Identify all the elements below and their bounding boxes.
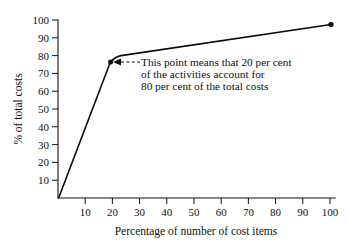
- pareto-chart-canvas: 100 90 80 70 60 50 40 30 20 10 % of tota…: [0, 0, 350, 250]
- y-tick-label-80: 80: [38, 50, 50, 62]
- callout-text-line-1: This point means that 20 per cent: [141, 56, 292, 68]
- chart-figure: 100 90 80 70 60 50 40 30 20 10 % of tota…: [0, 0, 350, 250]
- callout-text-line-2: of the activities account for: [141, 68, 265, 80]
- y-tick-label-30: 30: [38, 139, 50, 151]
- x-axis-tick-labels: 10 20 30 40 50 60 70 80 90 100: [80, 206, 339, 218]
- x-axis-ticks: [85, 198, 330, 204]
- pareto-callout-text: This point means that 20 per cent of the…: [141, 56, 292, 92]
- y-tick-label-60: 60: [38, 85, 50, 97]
- x-tick-label-100: 100: [322, 206, 339, 218]
- x-tick-label-20: 20: [107, 206, 119, 218]
- y-tick-label-100: 100: [33, 14, 50, 26]
- data-point-end-100-98: [328, 22, 333, 27]
- y-axis-tick-labels: 100 90 80 70 60 50 40 30 20 10: [33, 14, 50, 186]
- y-tick-label-10: 10: [38, 174, 50, 186]
- leader-arrow-head-icon: [113, 59, 121, 66]
- y-axis-group: 100 90 80 70 60 50 40 30 20 10 % of tota…: [12, 14, 58, 198]
- y-tick-label-40: 40: [38, 121, 50, 133]
- y-axis-title: % of total costs: [12, 73, 24, 145]
- y-tick-label-50: 50: [38, 103, 50, 115]
- x-tick-label-50: 50: [189, 206, 201, 218]
- x-tick-label-90: 90: [297, 206, 309, 218]
- y-tick-label-70: 70: [38, 67, 50, 79]
- data-point-knee-20-80: [108, 60, 113, 65]
- x-axis-group: 10 20 30 40 50 60 70 80 90 100 Percentag…: [58, 198, 339, 238]
- y-axis-ticks: [52, 20, 58, 180]
- callout-text-line-3: 80 per cent of the total costs: [141, 80, 268, 92]
- pareto-curve-path: [59, 25, 331, 198]
- y-tick-label-20: 20: [38, 156, 50, 168]
- pareto-callout-leader: [113, 59, 140, 66]
- x-tick-label-80: 80: [270, 206, 282, 218]
- x-tick-label-70: 70: [243, 206, 255, 218]
- x-tick-label-30: 30: [134, 206, 146, 218]
- x-tick-label-10: 10: [80, 206, 92, 218]
- x-tick-label-60: 60: [216, 206, 228, 218]
- data-series-cumulative-cost-curve: [59, 22, 334, 197]
- x-tick-label-40: 40: [161, 206, 173, 218]
- y-tick-label-90: 90: [38, 32, 50, 44]
- x-axis-title: Percentage of number of cost items: [115, 225, 278, 238]
